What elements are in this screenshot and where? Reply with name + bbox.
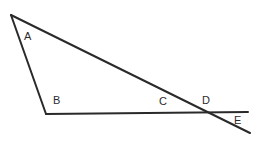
vertex-label-a: A bbox=[24, 31, 31, 42]
line-segment-a-e bbox=[11, 15, 250, 133]
vertex-label-b: B bbox=[53, 95, 60, 106]
line-segment-b-right bbox=[46, 112, 248, 114]
vertex-label-c: C bbox=[159, 96, 167, 107]
vertex-label-e: E bbox=[234, 115, 241, 126]
geometry-figure-svg bbox=[0, 0, 261, 144]
vertex-label-d: D bbox=[202, 95, 210, 106]
geometry-figure-canvas: A B C D E bbox=[0, 0, 261, 144]
